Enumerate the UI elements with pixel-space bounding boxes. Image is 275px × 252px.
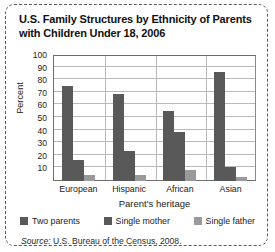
source-note: Source: U.S. Bureau of the Census, 2008.	[21, 236, 182, 246]
legend-item: Single mother	[104, 216, 170, 226]
y-axis-tick-label: 20	[38, 152, 47, 161]
y-axis-tick-label: 30	[38, 139, 47, 148]
y-axis-tick-label: 90	[38, 63, 47, 72]
legend-swatch	[104, 217, 112, 225]
bar	[73, 160, 84, 181]
y-axis-tick-label: 60	[38, 101, 47, 110]
x-axis-category-label: African	[155, 184, 206, 194]
bar-group	[205, 55, 256, 181]
bar	[236, 177, 247, 181]
figure-container: U.S. Family Structures by Ethnicity of P…	[5, 4, 268, 246]
bar-group	[155, 55, 206, 181]
bar-group	[104, 55, 155, 181]
legend-item: Two parents	[20, 216, 80, 226]
legend-item: Single father	[194, 216, 255, 226]
y-axis-tick-labels: 102030405060708090100	[6, 55, 51, 181]
legend-label: Two parents	[32, 216, 80, 226]
legend-swatch	[20, 217, 28, 225]
source-label: Source:	[21, 236, 51, 246]
x-axis-category-label: European	[53, 184, 104, 194]
y-axis-tick-label: 50	[38, 114, 47, 123]
y-axis-tick-label: 10	[38, 164, 47, 173]
x-axis-category-label: Asian	[205, 184, 256, 194]
legend-label: Single mother	[116, 216, 170, 226]
bar	[84, 175, 95, 181]
y-axis-tick-label: 70	[38, 89, 47, 98]
y-axis-tick-label: 100	[33, 51, 47, 60]
bar	[113, 94, 124, 182]
bar	[174, 132, 185, 181]
legend-label: Single father	[206, 216, 255, 226]
bar	[135, 175, 146, 181]
bar	[163, 111, 174, 181]
bar	[185, 170, 196, 181]
y-axis-tick-label: 80	[38, 76, 47, 85]
y-axis-tick-label: 40	[38, 126, 47, 135]
bar-group	[53, 55, 104, 181]
x-axis-title: Parent's heritage	[53, 198, 256, 209]
bar	[62, 86, 73, 181]
bar	[124, 151, 135, 181]
bar	[214, 72, 225, 181]
source-text: U.S. Bureau of the Census, 2008.	[51, 236, 182, 246]
x-axis-category-label: Hispanic	[104, 184, 155, 194]
chart-title: U.S. Family Structures by Ethnicity of P…	[19, 13, 259, 40]
legend-swatch	[194, 217, 202, 225]
chart-legend: Two parentsSingle motherSingle father	[20, 216, 255, 226]
bar	[225, 167, 236, 181]
plot-area	[53, 55, 256, 181]
